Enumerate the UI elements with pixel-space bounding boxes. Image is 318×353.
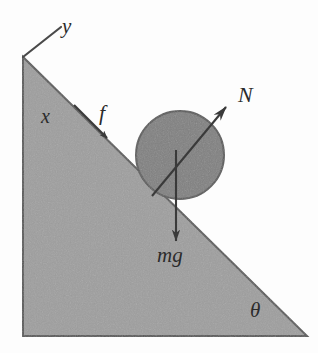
y-axis-label: y bbox=[62, 16, 71, 37]
incline-angle-label: θ bbox=[250, 300, 260, 321]
weight-label: mg bbox=[157, 245, 183, 266]
diagram-canvas bbox=[0, 0, 318, 353]
physics-diagram-figure: y x f N mg θ bbox=[0, 0, 318, 353]
x-axis-label: x bbox=[41, 106, 50, 126]
friction-label: f bbox=[99, 102, 105, 124]
normal-force-label: N bbox=[238, 84, 253, 106]
y-axis-line bbox=[23, 27, 61, 57]
